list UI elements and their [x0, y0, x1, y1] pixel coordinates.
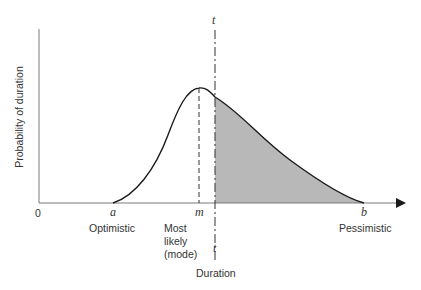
x-axis-label: Duration: [196, 267, 236, 280]
tick-t-top: t: [212, 14, 215, 27]
origin-label: 0: [35, 207, 41, 220]
most-likely-line3: (mode): [164, 248, 197, 261]
shaded-area-t-to-b: [215, 97, 364, 203]
most-likely-line2: likely: [164, 235, 187, 248]
tick-a: a: [110, 206, 116, 219]
optimistic-label: Optimistic: [89, 222, 135, 235]
tick-b: b: [361, 206, 367, 219]
tick-t-bottom: t: [213, 242, 216, 255]
x-axis-arrow-icon: [396, 198, 406, 208]
most-likely-line1: Most: [164, 222, 187, 235]
y-axis-label: Probability of duration: [13, 66, 25, 168]
distribution-diagram: [0, 0, 421, 290]
tick-m: m: [195, 206, 204, 219]
pessimistic-label: Pessimistic: [339, 222, 392, 235]
